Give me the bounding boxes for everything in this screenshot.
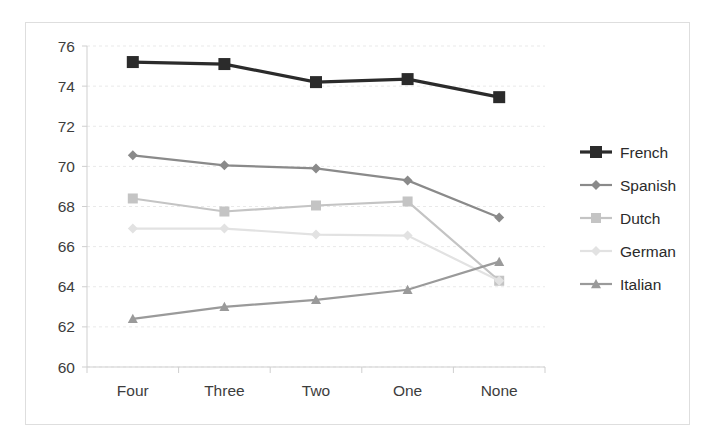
y-tick-label: 76 [58, 38, 75, 55]
y-tick-label: 64 [58, 278, 76, 295]
data-point-marker [402, 73, 414, 85]
y-tick-label: 70 [58, 158, 76, 175]
legend-marker-icon [591, 246, 601, 256]
data-point-marker [128, 193, 138, 203]
x-category-label: Three [204, 382, 245, 399]
y-tick-label: 60 [58, 359, 76, 376]
x-category-label: None [481, 382, 518, 399]
x-category-label: One [393, 382, 422, 399]
legend-item-spanish[interactable]: Spanish [580, 177, 676, 194]
data-point-marker [219, 207, 229, 217]
data-point-marker [218, 58, 230, 70]
chart-container: 606264666870727476 FourThreeTwoOneNone F… [0, 0, 726, 446]
line-chart-plot: 606264666870727476 FourThreeTwoOneNone F… [0, 0, 726, 446]
legend-marker-icon [591, 180, 601, 190]
y-tick-label: 68 [58, 198, 75, 215]
series-dutch [128, 193, 504, 285]
legend-label: Spanish [620, 177, 676, 194]
series-french [127, 56, 505, 103]
y-axis-group: 606264666870727476 [58, 38, 87, 376]
series-spanish [128, 150, 504, 222]
legend-item-italian[interactable]: Italian [580, 276, 661, 293]
legend-marker-icon [590, 146, 602, 158]
data-point-marker [403, 196, 413, 206]
x-axis-group: FourThreeTwoOneNone [87, 367, 545, 399]
legend-label: French [620, 144, 668, 161]
y-tick-label: 74 [58, 78, 76, 95]
y-tick-label: 72 [58, 118, 75, 135]
x-category-label: Two [302, 382, 330, 399]
data-point-marker [310, 76, 322, 88]
x-category-label: Four [117, 382, 149, 399]
chart-legend: FrenchSpanishDutchGermanItalian [580, 144, 676, 293]
data-point-marker [128, 224, 138, 234]
legend-item-dutch[interactable]: Dutch [580, 210, 661, 227]
data-point-marker [403, 175, 413, 185]
data-point-marker [311, 163, 321, 173]
y-tick-label: 66 [58, 238, 75, 255]
legend-marker-icon [591, 213, 601, 223]
series-line [133, 198, 499, 280]
data-point-marker [311, 200, 321, 210]
data-point-marker [219, 160, 229, 170]
series-italian [128, 257, 504, 323]
legend-label: Dutch [620, 210, 661, 227]
legend-label: Italian [620, 276, 661, 293]
series-line [133, 262, 499, 319]
series-group [127, 56, 505, 323]
data-point-marker [219, 224, 229, 234]
data-point-marker [127, 56, 139, 68]
y-tick-label: 62 [58, 318, 75, 335]
legend-label: German [620, 243, 676, 260]
data-point-marker [128, 150, 138, 160]
data-point-marker [494, 257, 504, 266]
legend-item-french[interactable]: French [580, 144, 668, 161]
data-point-marker [311, 230, 321, 240]
legend-item-german[interactable]: German [580, 243, 676, 260]
data-point-marker [494, 213, 504, 223]
data-point-marker [403, 231, 413, 241]
data-point-marker [493, 91, 505, 103]
